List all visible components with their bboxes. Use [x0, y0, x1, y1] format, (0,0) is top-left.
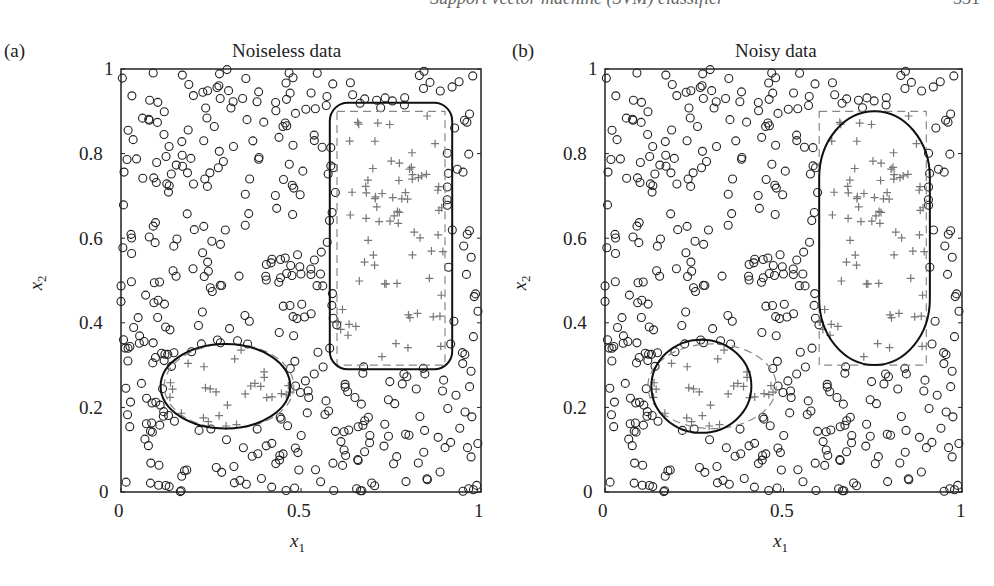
svm-scatter-plots [0, 0, 994, 586]
